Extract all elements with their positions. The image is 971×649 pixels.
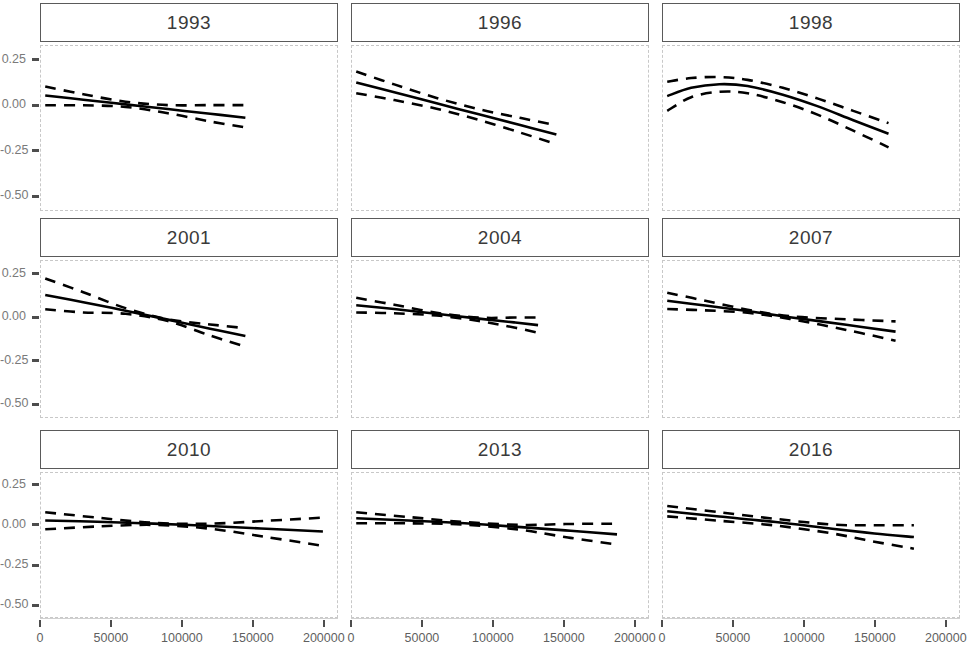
x-tick-mark [803,620,805,627]
ci-upper-line [45,278,245,328]
x-tick-mark [421,620,423,627]
x-tick-mark [181,620,183,627]
x-tick-mark [39,620,41,627]
y-tick-mark [32,195,39,198]
facet-strip-2001: 2001 [40,218,338,257]
ci-lower-line [45,525,323,546]
y-tick-label: 0.00 [0,517,26,531]
y-tick-mark [32,604,39,607]
y-tick-label: 0.25 [0,52,26,66]
facet-strip-label: 2016 [789,439,833,461]
y-tick-label: -0.25 [0,353,26,367]
x-axis-line [40,618,338,619]
y-tick-label: -0.50 [0,188,26,202]
plot-area-2001 [40,260,338,418]
ci-upper-line [45,87,245,106]
plot-area-2010 [40,472,338,618]
x-axis-line [662,618,960,619]
x-tick-label: 200000 [901,631,971,645]
plot-area-2016 [662,472,960,618]
plot-area-2013 [351,472,649,618]
plot-area-1998 [662,45,960,211]
y-tick-label: -0.50 [0,597,26,611]
x-tick-mark [492,620,494,627]
facet-panel-2010: 2010 [40,430,338,618]
fit-line [45,96,245,118]
y-tick-label: 0.25 [0,266,26,280]
facet-strip-label: 2013 [478,439,522,461]
plot-area-1996 [351,45,649,211]
y-tick-mark [32,104,39,107]
facet-strip-1998: 1998 [662,3,960,42]
plot-area-1993 [40,45,338,211]
fit-line [45,295,245,336]
facet-strip-label: 1998 [789,12,833,34]
panel-curves-2004 [352,261,648,417]
y-tick-mark [32,359,39,362]
y-tick-mark [32,483,39,486]
y-tick-mark [32,403,39,406]
ci-lower-line [45,105,245,127]
x-tick-mark [634,620,636,627]
y-tick-label: -0.50 [0,396,26,410]
facet-strip-label: 1996 [478,12,522,34]
ci-lower-line [667,91,888,147]
fit-line [356,305,538,325]
facet-strip-label: 2001 [167,227,211,249]
y-tick-label: -0.25 [0,557,26,571]
fit-line [667,301,895,332]
facet-panel-2016: 2016 [662,430,960,618]
facet-strip-label: 1993 [167,12,211,34]
y-tick-mark [32,564,39,567]
panel-curves-2001 [41,261,337,417]
x-axis-line [351,618,649,619]
facet-panel-1996: 1996 [351,3,649,211]
panel-curves-1998 [663,46,959,210]
ci-lower-line [356,523,617,544]
fit-line [356,82,556,134]
x-tick-mark [110,620,112,627]
panel-curves-1996 [352,46,648,210]
y-tick-label: 0.00 [0,309,26,323]
y-tick-label: 0.25 [0,477,26,491]
facet-strip-1996: 1996 [351,3,649,42]
facet-strip-2010: 2010 [40,430,338,469]
plot-area-2004 [351,260,649,418]
facet-strip-2004: 2004 [351,218,649,257]
facet-panel-1998: 1998 [662,3,960,211]
facet-panel-2013: 2013 [351,430,649,618]
x-tick-mark [732,620,734,627]
ci-upper-line [356,72,556,126]
x-tick-mark [350,620,352,627]
ci-lower-line [667,309,895,341]
facet-panel-2004: 2004 [351,218,649,418]
facet-strip-2016: 2016 [662,430,960,469]
y-tick-mark [32,272,39,275]
y-tick-label: 0.00 [0,97,26,111]
facet-strip-label: 2007 [789,227,833,249]
x-tick-mark [563,620,565,627]
fit-line [356,518,617,534]
panel-curves-2013 [352,473,648,617]
fit-line [667,84,888,134]
facet-strip-2007: 2007 [662,218,960,257]
facet-strip-label: 2004 [478,227,522,249]
panel-curves-2007 [663,261,959,417]
facet-panel-1993: 1993 [40,3,338,211]
x-tick-mark [323,620,325,627]
facet-strip-2013: 2013 [351,430,649,469]
y-tick-mark [32,58,39,61]
panel-curves-2016 [663,473,959,617]
x-tick-mark [661,620,663,627]
y-tick-mark [32,523,39,526]
x-tick-mark [874,620,876,627]
plot-area-2007 [662,260,960,418]
facet-strip-1993: 1993 [40,3,338,42]
panel-curves-2010 [41,473,337,617]
panel-curves-1993 [41,46,337,210]
y-tick-label: -0.25 [0,143,26,157]
x-tick-mark [945,620,947,627]
y-tick-mark [32,149,39,152]
facet-panel-2001: 2001 [40,218,338,418]
